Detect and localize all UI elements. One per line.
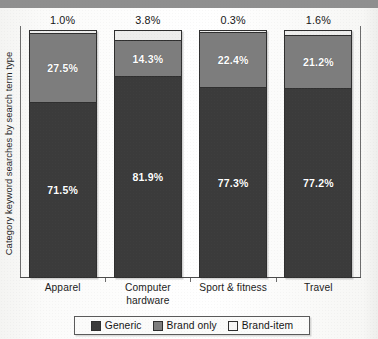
- bar-segment-value-label: 22.4%: [218, 54, 249, 66]
- bar-segment-value-label: 14.3%: [132, 53, 163, 65]
- bar-segment-generic[interactable]: 81.9%: [115, 77, 181, 277]
- bar-slot-travel: 1.6%21.2%77.2%: [276, 26, 361, 278]
- bar-segment-brand-only[interactable]: 21.2%: [285, 36, 351, 89]
- bar-segment-brand-only[interactable]: 14.3%: [115, 41, 181, 77]
- stacked-bar[interactable]: 1.6%21.2%77.2%: [284, 30, 352, 278]
- x-axis-label-sport-fitness: Sport & fitness: [191, 282, 276, 307]
- x-axis-label-line1: Computer: [125, 282, 171, 293]
- y-axis-title-text: Category keyword searches by search term…: [4, 51, 15, 254]
- bar-segment-value-label: 81.9%: [132, 171, 163, 183]
- bar-top-value-label: 3.8%: [135, 14, 160, 26]
- bar-segment-brand-only[interactable]: 22.4%: [200, 33, 266, 89]
- legend-swatch-icon: [153, 321, 163, 331]
- bar-top-value-label: 1.6%: [306, 14, 331, 26]
- stacked-bar[interactable]: 1.0%27.5%71.5%: [29, 30, 97, 278]
- bar-slot-apparel: 1.0%27.5%71.5%: [20, 26, 105, 278]
- bar-slot-sport-fitness: 0.3%22.4%77.3%: [191, 26, 276, 278]
- x-axis-label-apparel: Apparel: [20, 282, 105, 307]
- x-axis-label-line1: Apparel: [45, 282, 81, 293]
- x-axis-label-line2: hardware: [105, 295, 190, 308]
- legend-label: Brand only: [167, 320, 217, 331]
- x-axis-labels: ApparelComputerhardwareSport & fitnessTr…: [20, 282, 361, 307]
- legend-item-generic[interactable]: Generic: [91, 320, 142, 331]
- bar-segment-generic[interactable]: 77.3%: [200, 88, 266, 277]
- legend-label: Brand-item: [242, 320, 293, 331]
- stacked-bar[interactable]: 0.3%22.4%77.3%: [199, 30, 267, 278]
- bar-segment-value-label: 77.3%: [218, 177, 249, 189]
- legend-swatch-icon: [91, 321, 101, 331]
- legend-label: Generic: [105, 320, 142, 331]
- bar-segment-value-label: 27.5%: [47, 62, 78, 74]
- plot-area: 1.0%27.5%71.5%3.8%14.3%81.9%0.3%22.4%77.…: [20, 26, 361, 278]
- x-axis-label-line1: Sport & fitness: [199, 282, 267, 293]
- bar-top-value-label: 0.3%: [221, 14, 246, 26]
- legend-item-brand-item[interactable]: Brand-item: [228, 320, 293, 331]
- x-axis-label-travel: Travel: [276, 282, 361, 307]
- x-axis-label-computer: Computerhardware: [105, 282, 190, 307]
- bar-segment-brand-item[interactable]: [115, 31, 181, 41]
- bar-segment-generic[interactable]: 71.5%: [30, 103, 96, 277]
- y-axis-title: Category keyword searches by search term…: [2, 28, 16, 278]
- bar-segment-value-label: 77.2%: [303, 177, 334, 189]
- bar-top-value-label: 1.0%: [50, 14, 75, 26]
- x-axis-label-line1: Travel: [304, 282, 333, 293]
- chart-legend: GenericBrand onlyBrand-item: [74, 316, 310, 335]
- cut-off-title-band: [0, 0, 378, 8]
- legend-item-brand-only[interactable]: Brand only: [153, 320, 217, 331]
- stacked-bar[interactable]: 3.8%14.3%81.9%: [114, 30, 182, 278]
- bar-segment-value-label: 71.5%: [47, 184, 78, 196]
- bar-segment-generic[interactable]: 77.2%: [285, 89, 351, 277]
- bar-segment-value-label: 21.2%: [303, 56, 334, 68]
- bar-group: 1.0%27.5%71.5%3.8%14.3%81.9%0.3%22.4%77.…: [20, 26, 361, 278]
- bar-segment-brand-only[interactable]: 27.5%: [30, 34, 96, 102]
- bar-slot-computer-hardware: 3.8%14.3%81.9%: [105, 26, 190, 278]
- legend-swatch-icon: [228, 321, 238, 331]
